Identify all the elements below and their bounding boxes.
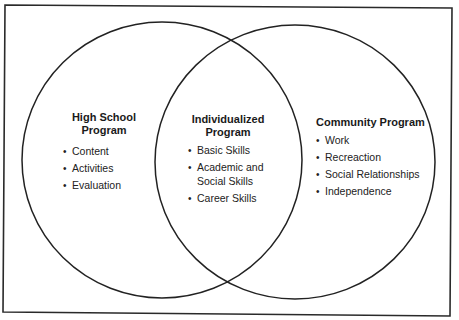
list-item: • Career Skills [188,192,264,205]
bullet-icon: • [63,179,67,192]
bullet-icon: • [316,134,320,147]
list-item: • Activities [63,162,121,175]
list-item: • Social Relationships [316,168,420,181]
high-school-title-line2: Program [64,124,144,137]
list-item: • Independence [316,185,420,198]
community-title-line1: Community Program [316,116,425,129]
individualized-title-line1: Individualized [188,113,268,126]
list-item: • Academic and [188,161,264,174]
list-item: • Content [63,145,121,158]
community-title: Community Program [316,116,425,129]
high-school-list: • Content • Activities • Evaluation [63,145,121,192]
venn-diagram: High School Program • Content • Activiti… [0,0,459,320]
bullet-icon: • [63,162,67,175]
list-item: • Basic Skills [188,144,264,157]
individualized-title-line2: Program [188,126,268,139]
list-item: • Recreaction [316,151,420,164]
high-school-title: High School Program [64,111,144,137]
individualized-title: Individualized Program [188,113,268,139]
list-item: • Work [316,134,420,147]
list-item-continuation: Social Skills [188,175,264,188]
bullet-icon: • [316,168,320,181]
bullet-icon: • [188,192,192,205]
bullet-icon: • [316,151,320,164]
community-list: • Work • Recreaction • Social Relationsh… [316,134,420,198]
bullet-icon: • [316,185,320,198]
bullet-icon: • [63,145,67,158]
list-item: • Evaluation [63,179,121,192]
bullet-icon: • [188,161,192,174]
high-school-title-line1: High School [64,111,144,124]
bullet-icon: • [188,144,192,157]
individualized-list: • Basic Skills • Academic and Social Ski… [188,144,264,205]
